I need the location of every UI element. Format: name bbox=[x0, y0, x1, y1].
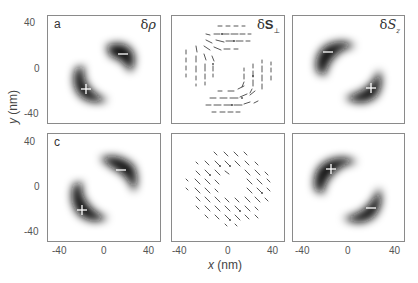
y-tick-bottom-0: 0 bbox=[34, 181, 40, 192]
x-axis-label: x (nm) bbox=[208, 258, 242, 272]
y-tick-top-40: 40 bbox=[24, 17, 35, 28]
x-tick-right-neg40: -40 bbox=[295, 245, 309, 256]
y-tick-bottom-40: 40 bbox=[24, 136, 35, 147]
panel-label-c: c bbox=[54, 135, 60, 149]
x-tick-left-neg40: -40 bbox=[52, 245, 66, 256]
quantity-label-delta-rho: δρ bbox=[141, 17, 156, 32]
y-axis-label: y (nm) bbox=[6, 90, 20, 124]
panel-d-spin-vector-field bbox=[171, 133, 285, 242]
arrow-field-uniform bbox=[172, 134, 285, 242]
y-tick-top-0: 0 bbox=[34, 63, 40, 74]
quantity-label-delta-Sz: δSz bbox=[380, 17, 400, 35]
x-tick-right-0: 0 bbox=[345, 245, 351, 256]
x-tick-right-40: 40 bbox=[389, 245, 400, 256]
panel-density-Sz-top: δSz bbox=[292, 15, 405, 124]
x-tick-mid-40: 40 bbox=[267, 245, 278, 256]
y-tick-top-neg40: -40 bbox=[24, 108, 38, 119]
x-tick-left-0: 0 bbox=[101, 245, 107, 256]
panel-label-a: a bbox=[54, 17, 61, 31]
x-tick-left-40: 40 bbox=[143, 245, 154, 256]
x-tick-mid-neg40: -40 bbox=[172, 245, 186, 256]
panel-c-density: c bbox=[47, 133, 161, 242]
panel-b-spin-vector-field: δS⊥ bbox=[171, 15, 285, 124]
panel-a-density: a δρ bbox=[47, 15, 161, 124]
x-tick-mid-0: 0 bbox=[225, 245, 231, 256]
y-tick-bottom-neg40: -40 bbox=[24, 226, 38, 237]
quantity-label-delta-S-perp: δS⊥ bbox=[257, 17, 280, 35]
panel-density-Sz-bottom bbox=[292, 133, 405, 242]
